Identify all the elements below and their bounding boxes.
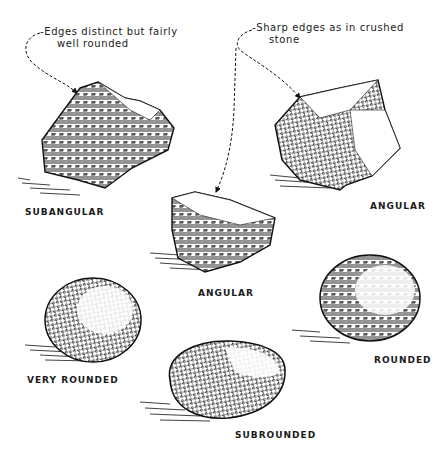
label-subangular: SUBANGULAR — [25, 207, 104, 217]
angular-top-rock — [270, 80, 400, 190]
label-angular-top: ANGULAR — [370, 201, 426, 211]
angular-middle-rock — [150, 192, 275, 272]
annotation-angular: -Sharp edges as in crushed stone — [252, 22, 404, 46]
annotation-line: stone — [252, 34, 404, 46]
rounded-rock — [292, 255, 420, 343]
annotation-line: well rounded — [40, 38, 178, 50]
subangular-rock — [18, 82, 174, 195]
annotation-subangular: -Edges distinct but fairly well rounded — [40, 26, 178, 50]
label-angular-middle: ANGULAR — [198, 288, 254, 298]
subrounded-rock — [140, 341, 285, 421]
label-subrounded: SUBROUNDED — [235, 430, 316, 440]
label-very-rounded: VERY ROUNDED — [27, 375, 119, 385]
illustration-canvas — [0, 0, 443, 461]
label-rounded: ROUNDED — [374, 355, 432, 365]
annotation-line: -Sharp edges as in crushed — [252, 22, 404, 34]
annotation-line: -Edges distinct but fairly — [40, 26, 178, 38]
very-rounded-rock — [25, 278, 141, 362]
